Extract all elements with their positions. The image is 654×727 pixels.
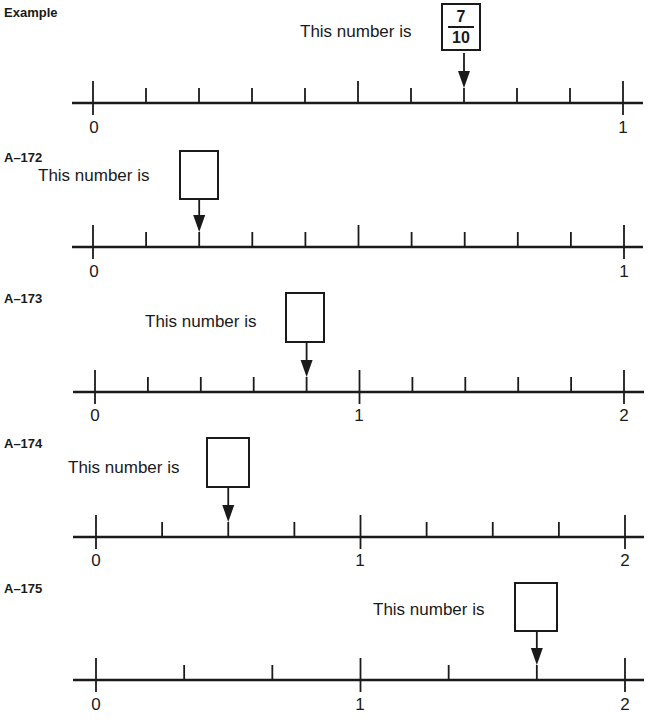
- arrow-down-icon: [193, 215, 205, 232]
- arrow-down-icon: [531, 648, 543, 665]
- arrow-down-icon: [458, 71, 470, 88]
- number-lines-layer: [0, 0, 654, 727]
- arrow-down-icon: [301, 360, 313, 377]
- arrow-down-icon: [222, 505, 234, 522]
